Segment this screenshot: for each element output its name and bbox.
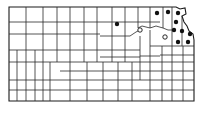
- filled-record-dot: [176, 40, 180, 44]
- filled-record-dot: [115, 22, 119, 26]
- filled-record-dot: [176, 11, 180, 15]
- open-record-markers: [138, 28, 167, 39]
- filled-record-dot: [180, 29, 184, 33]
- filled-record-dot: [155, 11, 159, 15]
- open-record-dot: [163, 35, 167, 39]
- filled-record-dot: [174, 20, 178, 24]
- filled-record-dot: [186, 40, 190, 44]
- kansas-county-map: [0, 0, 206, 117]
- filled-record-dot: [188, 32, 192, 36]
- open-record-dot: [138, 28, 142, 32]
- county-grid: [9, 7, 194, 101]
- filled-record-dot: [166, 10, 170, 14]
- state-border: [9, 7, 194, 101]
- filled-record-dot: [172, 28, 176, 32]
